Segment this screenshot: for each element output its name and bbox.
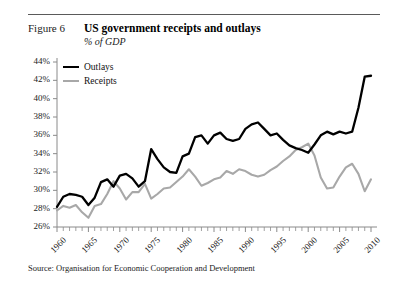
y-axis-tick-label: 42% xyxy=(24,74,50,84)
x-axis-ticks xyxy=(57,227,371,232)
y-axis-tick-label: 32% xyxy=(24,166,50,176)
y-axis-tick-label: 28% xyxy=(24,203,50,213)
y-axis-tick-label: 26% xyxy=(24,221,50,231)
y-axis-tick-label: 38% xyxy=(24,111,50,121)
figure-container: Figure 6 US government receipts and outl… xyxy=(0,0,402,298)
y-axis-tick-label: 30% xyxy=(24,184,50,194)
source-note: Source: Organisation for Economic Cooper… xyxy=(28,263,255,273)
y-axis-ticks xyxy=(53,62,57,227)
y-axis-tick-label: 36% xyxy=(24,129,50,139)
y-axis-tick-label: 40% xyxy=(24,93,50,103)
series-line-outlays xyxy=(57,76,371,207)
axis-lines xyxy=(57,58,377,227)
y-axis-tick-label: 34% xyxy=(24,148,50,158)
y-axis-tick-label: 44% xyxy=(24,56,50,66)
